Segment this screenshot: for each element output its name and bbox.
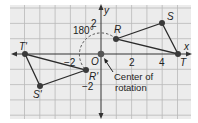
point-s [159, 20, 165, 26]
x-axis-label: x [183, 41, 190, 52]
label-r: R [114, 24, 121, 35]
center-label-line2: rotation [115, 82, 147, 93]
point-r [113, 36, 119, 42]
label-origin: O [91, 56, 99, 67]
label-t-prime: T' [19, 41, 28, 52]
rotation-diagram: x y −2 2 4 2 −2 180° R S T R' S' T' O Ce… [0, 0, 198, 123]
label-s: S [167, 11, 174, 22]
center-label-line1: Center of [114, 71, 153, 82]
label-t: T [180, 57, 187, 68]
y-axis-label: y [103, 5, 110, 16]
tick-x-2: 2 [129, 57, 135, 68]
label-s-prime: S' [33, 89, 43, 100]
angle-label: 180° [73, 25, 94, 36]
tick-y-neg2: −2 [82, 81, 94, 92]
label-r-prime: R' [89, 71, 99, 82]
tick-x-4: 4 [159, 57, 165, 68]
